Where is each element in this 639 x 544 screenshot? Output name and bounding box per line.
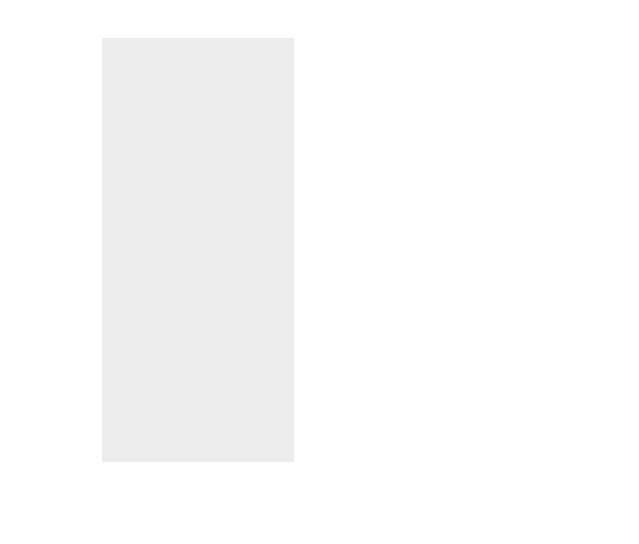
chart-canvas [0,0,639,544]
